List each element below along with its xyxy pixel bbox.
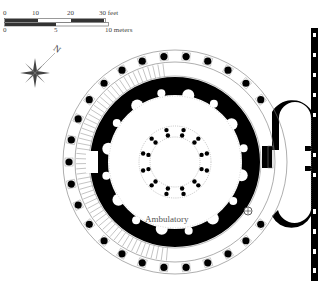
inner-colonnade bbox=[109, 96, 241, 228]
ambulatory-label: Ambulatory bbox=[145, 214, 189, 224]
east-annex bbox=[272, 28, 318, 281]
floor-plan bbox=[0, 0, 318, 281]
compass-rose-icon bbox=[20, 53, 55, 88]
